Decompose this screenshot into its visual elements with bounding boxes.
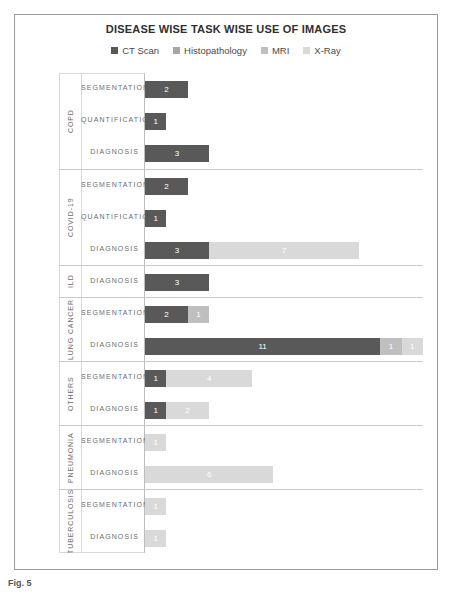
bar-segment-ct-scan[interactable]: 1 (145, 402, 166, 419)
task-label: DIAGNOSIS (81, 245, 145, 252)
bar-segment-x-ray[interactable]: 7 (209, 242, 359, 259)
bar-segment-x-ray[interactable]: 1 (145, 434, 166, 451)
stacked-bar[interactable]: 3 (145, 145, 423, 162)
bar-segment-x-ray[interactable]: 1 (145, 498, 166, 515)
chart-row: DIAGNOSIS3 (59, 137, 423, 169)
chart-row: DIAGNOSIS3 (59, 266, 423, 298)
chart-row: DIAGNOSIS6 (59, 458, 423, 490)
legend-label: Histopathology (184, 45, 247, 56)
plot-area: COPDSEGMENTATION2QUANTIFICATION1DIAGNOSI… (59, 73, 423, 553)
chart-title: DISEASE WISE TASK WISE USE OF IMAGES (15, 23, 437, 35)
chart-row: DIAGNOSIS1 (59, 522, 423, 554)
chart-row: DIAGNOSIS1111 (59, 330, 423, 362)
chart-row: SEGMENTATION21 (59, 298, 423, 330)
stacked-bar[interactable]: 14 (145, 370, 423, 387)
legend-item-mri[interactable]: MRI (261, 45, 289, 56)
stacked-bar[interactable]: 1 (145, 113, 423, 130)
figure-page: DISEASE WISE TASK WISE USE OF IMAGES CT … (0, 0, 456, 612)
chart-figure-frame: DISEASE WISE TASK WISE USE OF IMAGES CT … (14, 14, 438, 570)
task-label: DIAGNOSIS (81, 469, 145, 476)
bar-segment-mri[interactable]: 1 (188, 306, 209, 323)
bar-segment-ct-scan[interactable]: 11 (145, 338, 380, 355)
task-label: QUANTIFICATION (81, 213, 145, 220)
task-label: SEGMENTATION (81, 181, 145, 188)
chart-row: SEGMENTATION2 (59, 73, 423, 105)
legend-item-ct-scan[interactable]: CT Scan (111, 45, 159, 56)
stacked-bar[interactable]: 3 (145, 274, 423, 291)
bar-segment-x-ray[interactable]: 4 (166, 370, 252, 387)
disease-group-ild: ILDDIAGNOSIS3 (59, 265, 423, 297)
disease-group-copd: COPDSEGMENTATION2QUANTIFICATION1DIAGNOSI… (59, 73, 423, 169)
task-label: QUANTIFICATION (81, 116, 145, 123)
legend-label: MRI (272, 45, 289, 56)
disease-group-tuberculosis: TUBERCULOSISSEGMENTATION1DIAGNOSIS1 (59, 489, 423, 553)
legend-swatch-icon (303, 47, 310, 54)
bar-segment-ct-scan[interactable]: 1 (145, 210, 166, 227)
bar-segment-ct-scan[interactable]: 2 (145, 81, 188, 98)
stacked-bar[interactable]: 6 (145, 466, 423, 483)
chart-row: QUANTIFICATION1 (59, 202, 423, 234)
task-label: DIAGNOSIS (81, 533, 145, 540)
stacked-bar[interactable]: 1 (145, 498, 423, 515)
chart-row: SEGMENTATION2 (59, 170, 423, 202)
bar-segment-x-ray[interactable]: 1 (402, 338, 423, 355)
bar-segment-ct-scan[interactable]: 3 (145, 274, 209, 291)
task-label: SEGMENTATION (81, 437, 145, 444)
legend-item-x-ray[interactable]: X-Ray (303, 45, 340, 56)
bar-segment-ct-scan[interactable]: 2 (145, 306, 188, 323)
stacked-bar[interactable]: 21 (145, 306, 423, 323)
stacked-bar[interactable]: 2 (145, 178, 423, 195)
legend-item-histopathology[interactable]: Histopathology (173, 45, 247, 56)
bar-segment-ct-scan[interactable]: 3 (145, 242, 209, 259)
bar-segment-x-ray[interactable]: 1 (145, 530, 166, 547)
task-label: DIAGNOSIS (81, 277, 145, 284)
disease-group-lung-cancer: LUNG CANCERSEGMENTATION21DIAGNOSIS1111 (59, 297, 423, 361)
chart-row: DIAGNOSIS12 (59, 394, 423, 426)
stacked-bar[interactable]: 1 (145, 434, 423, 451)
task-label: SEGMENTATION (81, 84, 145, 91)
disease-group-pneumonia: PNEUMONIASEGMENTATION1DIAGNOSIS6 (59, 425, 423, 489)
task-label: SEGMENTATION (81, 501, 145, 508)
task-label: DIAGNOSIS (81, 341, 145, 348)
chart-row: SEGMENTATION1 (59, 426, 423, 458)
stacked-bar[interactable]: 1 (145, 530, 423, 547)
stacked-bar[interactable]: 1 (145, 210, 423, 227)
chart-row: QUANTIFICATION1 (59, 105, 423, 137)
legend-swatch-icon (261, 47, 268, 54)
disease-group-others: OTHERSSEGMENTATION14DIAGNOSIS12 (59, 361, 423, 425)
bar-segment-x-ray[interactable]: 6 (145, 466, 273, 483)
legend-swatch-icon (111, 47, 118, 54)
chart-legend: CT ScanHistopathologyMRIX-Ray (15, 45, 437, 56)
bar-segment-ct-scan[interactable]: 1 (145, 370, 166, 387)
legend-label: CT Scan (122, 45, 159, 56)
chart-row: SEGMENTATION1 (59, 490, 423, 522)
task-label: DIAGNOSIS (81, 148, 145, 155)
bar-segment-ct-scan[interactable]: 3 (145, 145, 209, 162)
bar-segment-ct-scan[interactable]: 2 (145, 178, 188, 195)
legend-swatch-icon (173, 47, 180, 54)
task-label: DIAGNOSIS (81, 405, 145, 412)
stacked-bar[interactable]: 1111 (145, 338, 423, 355)
chart-row: SEGMENTATION14 (59, 362, 423, 394)
task-label: SEGMENTATION (81, 373, 145, 380)
bar-segment-ct-scan[interactable]: 1 (145, 113, 166, 130)
stacked-bar[interactable]: 37 (145, 242, 423, 259)
bar-segment-mri[interactable]: 1 (380, 338, 401, 355)
stacked-bar[interactable]: 2 (145, 81, 423, 98)
chart-row: DIAGNOSIS37 (59, 234, 423, 266)
legend-label: X-Ray (314, 45, 340, 56)
figure-caption: Fig. 5 (8, 578, 32, 588)
task-label: SEGMENTATION (81, 309, 145, 316)
bar-segment-x-ray[interactable]: 2 (166, 402, 209, 419)
stacked-bar[interactable]: 12 (145, 402, 423, 419)
disease-group-covid-19: COVID-19SEGMENTATION2QUANTIFICATION1DIAG… (59, 169, 423, 265)
chart-rows: COPDSEGMENTATION2QUANTIFICATION1DIAGNOSI… (59, 73, 423, 553)
